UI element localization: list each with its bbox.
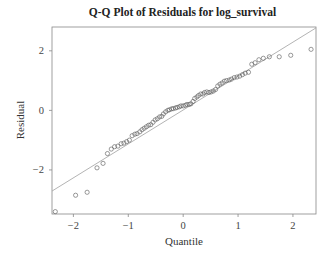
y-tick-label: 2 xyxy=(39,45,44,56)
x-tick-label: 0 xyxy=(181,220,186,231)
y-tick-label: −2 xyxy=(33,164,44,175)
y-tick-label: 0 xyxy=(39,105,44,116)
reference-line xyxy=(52,28,316,191)
qq-plot-figure: Q-Q Plot of Residuals for log_survival −… xyxy=(0,0,333,262)
data-point xyxy=(95,166,99,170)
data-points xyxy=(53,47,313,213)
x-axis-ticks: −2−1012 xyxy=(68,214,296,231)
x-axis-label: Quantile xyxy=(165,235,203,247)
data-point xyxy=(261,56,265,60)
y-axis-ticks: 20−2 xyxy=(33,45,52,175)
data-point xyxy=(289,53,293,57)
data-point xyxy=(119,142,123,146)
x-tick-label: 2 xyxy=(290,220,295,231)
plot-frame xyxy=(52,27,316,214)
data-point xyxy=(309,47,313,51)
y-axis-label: Residual xyxy=(14,101,26,140)
x-tick-label: −1 xyxy=(123,220,134,231)
data-point xyxy=(74,193,78,197)
data-point xyxy=(105,151,109,155)
data-point xyxy=(85,190,89,194)
data-point xyxy=(101,161,105,165)
data-point xyxy=(277,55,281,59)
data-point xyxy=(53,210,57,214)
plot-area: −2−1012 20−2 Quantile Residual xyxy=(0,0,333,262)
x-tick-label: 1 xyxy=(235,220,240,231)
data-point xyxy=(257,58,261,62)
reference-line-path xyxy=(52,28,316,191)
x-tick-label: −2 xyxy=(68,220,79,231)
